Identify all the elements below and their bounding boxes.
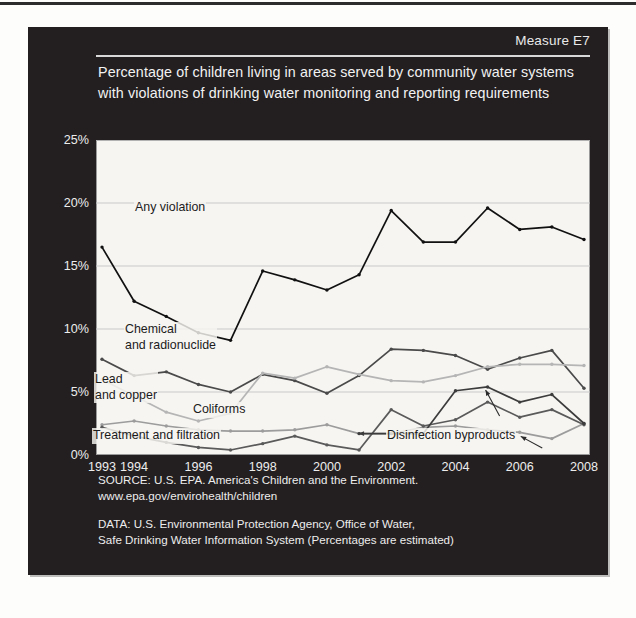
y-axis-tick: 0% [71,448,89,462]
source-line-2: www.epa.gov/envirohealth/children [98,488,588,504]
lead-and-copper-label: Leadand copper [94,372,158,403]
y-axis-tick: 5% [71,385,89,399]
page-top-rule [0,2,636,5]
chart-svg [96,140,590,455]
source-line-1: SOURCE: U.S. EPA. America's Children and… [98,472,588,488]
page-background: Measure E7 Percentage of children living… [0,0,636,618]
data-note: DATA: U.S. Environmental Protection Agen… [98,516,588,547]
any-violation-label: Any violation [134,200,206,216]
chemical-label: Chemicaland radionuclide [124,322,217,353]
measure-label: Measure E7 [515,33,590,48]
data-line-2: Safe Drinking Water Information System (… [98,532,588,548]
plot-wrapper: 0%5%10%15%20%25%199319941996199820002002… [96,140,590,455]
treatment-label: Treatment and filtration [92,428,221,444]
chart-panel: Measure E7 Percentage of children living… [28,27,608,575]
chart-title: Percentage of children living in areas s… [98,62,594,103]
disinfection-label: Disinfection byproducts [386,428,516,444]
coliforms-label: Coliforms [192,402,246,418]
y-axis-tick: 25% [64,133,89,147]
y-axis-tick: 20% [64,196,89,210]
y-axis-tick: 10% [64,322,89,336]
y-axis-tick: 15% [64,259,89,273]
header-divider [96,55,590,57]
source-note: SOURCE: U.S. EPA. America's Children and… [98,472,588,503]
data-line-1: DATA: U.S. Environmental Protection Agen… [98,516,588,532]
